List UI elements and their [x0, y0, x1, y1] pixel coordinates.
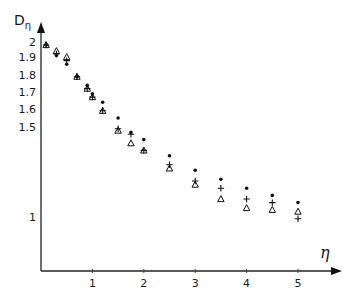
dot-marker: [116, 116, 120, 120]
data-points: [43, 42, 301, 222]
dot-marker: [296, 201, 300, 205]
plus-marker: [128, 131, 134, 137]
y-tick-label: 1: [29, 211, 36, 224]
triangle-marker: [218, 196, 224, 202]
y-tick-label: 1.5: [19, 121, 37, 134]
dot-marker: [168, 154, 172, 158]
x-tick-label: 4: [243, 277, 250, 290]
y-tick-label: 1.9: [19, 51, 37, 64]
chart: 12345 11.51.61.71.81.92 Dη η: [0, 0, 349, 298]
dot-marker: [142, 138, 146, 142]
x-tick-label: 1: [89, 277, 96, 290]
dot-marker: [101, 100, 105, 104]
dot-marker: [193, 168, 197, 172]
x-axis-title: η: [320, 243, 330, 262]
y-tick-label: 1.6: [19, 103, 37, 116]
x-axis: [41, 267, 342, 275]
y-axis: [37, 22, 45, 271]
triangle-marker: [269, 206, 275, 212]
plus-marker: [269, 199, 275, 205]
dot-marker: [271, 194, 275, 198]
y-tick-label: 1.7: [19, 86, 37, 99]
y-tick-label: 2: [29, 36, 36, 49]
triangle-marker: [243, 205, 249, 211]
plus-marker: [243, 196, 249, 202]
x-tick-label: 2: [140, 277, 147, 290]
y-ticks: 11.51.61.71.81.92: [19, 36, 37, 224]
y-axis-arrow-icon: [37, 22, 45, 33]
y-axis-title: Dη: [14, 12, 31, 31]
dot-marker: [219, 177, 223, 181]
triangle-marker: [295, 208, 301, 214]
x-axis-arrow-icon: [331, 267, 342, 275]
x-ticks: 12345: [89, 269, 302, 290]
x-tick-label: 3: [192, 277, 199, 290]
plus-marker: [218, 185, 224, 191]
plus-marker: [295, 216, 301, 222]
y-tick-label: 1.8: [19, 69, 37, 82]
dot-marker: [245, 186, 249, 190]
x-tick-label: 5: [295, 277, 302, 290]
triangle-marker: [128, 140, 134, 146]
